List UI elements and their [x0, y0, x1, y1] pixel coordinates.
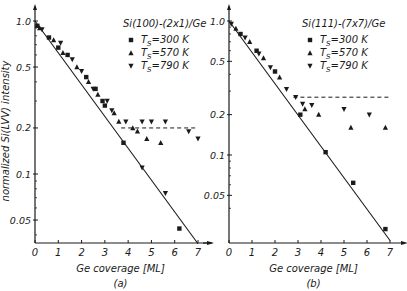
legend-entry: TS=790 K	[141, 60, 190, 74]
marker-triangle-up-icon	[116, 119, 121, 124]
y-tick-label: 0.1	[210, 150, 225, 161]
marker-triangle-up-icon	[247, 39, 252, 44]
marker-triangle-up-icon	[383, 125, 388, 130]
marker-square-icon	[103, 103, 107, 107]
panel-a: 012345671.00.50.20.10.05Si(100)-(2x1)/Ge…	[10, 4, 214, 289]
x-tick-label: 6	[364, 247, 370, 258]
x-tick-label: 1	[55, 247, 61, 258]
marker-triangle-down-icon	[256, 52, 261, 57]
y-tick-label: 1.0	[210, 16, 225, 27]
x-tick-label: 5	[148, 247, 154, 258]
y-tick-label: 0.05	[10, 215, 31, 226]
marker-square-icon	[177, 226, 181, 230]
x-tick-label: 4	[125, 247, 131, 258]
x-tick-label: 1	[249, 247, 255, 258]
x-tick-label: 2	[272, 247, 278, 258]
marker-triangle-up-icon	[86, 79, 91, 84]
chart-figure: 012345671.00.50.20.10.05Si(100)-(2x1)/Ge…	[0, 0, 407, 291]
y-tick-label: 0.05	[204, 190, 225, 201]
marker-square-icon	[121, 141, 125, 145]
marker-triangle-down-icon	[79, 69, 84, 74]
marker-triangle-up-icon	[348, 125, 353, 130]
marker-triangle-down-icon	[123, 119, 128, 124]
x-axis-label: Ge coverage [ML]	[76, 263, 165, 274]
legend-entry: TS=300 K	[141, 34, 190, 48]
panel-title: Si(100)-(2x1)/Ge	[123, 18, 206, 29]
x-tick-label: 0	[32, 247, 38, 258]
marker-square-icon	[383, 227, 387, 231]
marker-square-icon	[323, 150, 327, 154]
marker-triangle-down-icon	[367, 112, 372, 117]
legend: Si(100)-(2x1)/GeTS=300 KTS=570 KTS=790 K	[123, 18, 206, 74]
marker-triangle-down-icon	[300, 102, 305, 107]
marker-square-icon	[56, 45, 60, 49]
marker-triangle-down-icon	[140, 119, 145, 124]
x-axis-arrow-icon	[401, 241, 407, 245]
x-tick-label: 6	[172, 247, 178, 258]
marker-square-icon	[47, 35, 51, 39]
x-tick-label: 7	[195, 247, 202, 258]
marker-triangle-down-icon	[163, 119, 168, 124]
x-tick-label: 3	[295, 247, 301, 258]
marker-triangle-down-icon	[195, 137, 200, 142]
marker-triangle-down-icon	[58, 41, 63, 46]
marker-triangle-down-icon	[307, 64, 312, 69]
x-tick-label: 7	[387, 247, 394, 258]
marker-triangle-up-icon	[158, 140, 163, 145]
marker-triangle-down-icon	[341, 107, 346, 112]
marker-triangle-up-icon	[277, 75, 282, 80]
x-tick-label: 5	[341, 247, 347, 258]
marker-square-icon	[65, 53, 69, 57]
marker-square-icon	[351, 181, 355, 185]
x-tick-label: 4	[318, 247, 324, 258]
legend: Si(111)-(7x7)/GeTS=300 KTS=570 KTS=790 K	[302, 18, 385, 74]
y-axis-arrow-icon	[33, 4, 37, 10]
panel-label: (a)	[114, 278, 128, 289]
marker-triangle-up-icon	[128, 50, 133, 55]
marker-triangle-down-icon	[149, 119, 154, 124]
panel-label: (b)	[306, 278, 320, 289]
x-axis-label: Ge coverage [ML]	[269, 263, 358, 274]
marker-square-icon	[298, 112, 302, 116]
y-tick-label: 0.2	[16, 122, 31, 133]
marker-triangle-up-icon	[307, 50, 312, 55]
marker-triangle-up-icon	[316, 112, 321, 117]
marker-triangle-down-icon	[186, 129, 191, 134]
marker-square-icon	[308, 38, 312, 42]
marker-square-icon	[238, 32, 242, 36]
y-tick-label: 1.0	[16, 16, 31, 27]
y-tick-label: 0.2	[210, 109, 225, 120]
y-tick-label: 0.5	[210, 56, 225, 67]
legend-entry: TS=570 K	[141, 47, 190, 61]
marker-triangle-down-icon	[163, 191, 168, 196]
legend-entry: TS=300 K	[320, 34, 369, 48]
marker-square-icon	[129, 38, 133, 42]
marker-square-icon	[273, 69, 277, 73]
marker-triangle-up-icon	[74, 64, 79, 69]
marker-triangle-up-icon	[95, 92, 100, 97]
panel-b: 012345671.00.50.20.10.05Si(111)-(7x7)/Ge…	[203, 4, 407, 289]
y-tick-label: 0.5	[16, 62, 31, 73]
marker-triangle-down-icon	[105, 99, 110, 104]
marker-triangle-down-icon	[284, 87, 289, 92]
marker-square-icon	[100, 99, 104, 103]
marker-triangle-down-icon	[268, 65, 273, 70]
marker-triangle-up-icon	[261, 55, 266, 60]
marker-triangle-down-icon	[70, 57, 75, 62]
legend-entry: TS=790 K	[320, 60, 369, 74]
marker-triangle-up-icon	[60, 50, 65, 55]
marker-triangle-down-icon	[128, 64, 133, 69]
legend-entry: TS=570 K	[320, 47, 369, 61]
y-axis-label: normalized Si(LVV) intensity	[0, 59, 11, 201]
marker-triangle-down-icon	[309, 103, 314, 108]
marker-triangle-up-icon	[302, 106, 307, 111]
x-tick-label: 2	[78, 247, 84, 258]
x-tick-label: 0	[226, 247, 232, 258]
y-tick-label: 0.1	[16, 169, 31, 180]
marker-triangle-up-icon	[135, 129, 140, 134]
x-tick-label: 3	[102, 247, 108, 258]
marker-triangle-up-icon	[144, 136, 149, 141]
y-axis-arrow-icon	[227, 4, 231, 10]
marker-square-icon	[84, 75, 88, 79]
panel-title: Si(111)-(7x7)/Ge	[302, 18, 385, 29]
